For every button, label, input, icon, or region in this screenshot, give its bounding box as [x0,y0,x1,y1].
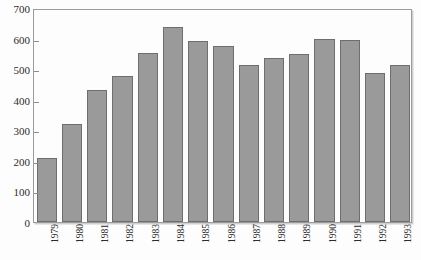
y-tick-mark [34,102,39,103]
y-tick-mark [34,193,39,194]
x-tick-label: 1984 [176,224,186,243]
bar-chart: 0100200300400500600700 19791980198119821… [0,0,421,260]
x-tick-label: 1986 [227,224,237,243]
bar [314,39,334,222]
x-tick-label: 1982 [125,224,135,243]
plot-area [33,9,412,223]
y-tick-label: 400 [0,95,30,106]
bar [163,27,183,222]
bar [213,46,233,222]
x-tick-label: 1988 [277,224,287,243]
y-tick-mark [34,41,39,42]
bar [37,158,57,222]
y-axis: 0100200300400500600700 [0,0,30,260]
bar [239,65,259,222]
bar [365,73,385,222]
x-tick-label: 1993 [403,224,413,243]
bar [188,41,208,222]
bar [289,54,309,222]
y-tick-label: 100 [0,187,30,198]
x-tick-label: 1981 [100,224,110,243]
y-tick-mark [34,163,39,164]
x-tick-label: 1987 [252,224,262,243]
bar [87,90,107,222]
bar [62,124,82,222]
x-tick-label: 1985 [201,224,211,243]
y-tick-label: 600 [0,34,30,45]
y-tick-label: 200 [0,156,30,167]
bar [264,58,284,222]
bar [112,76,132,222]
x-tick-label: 1983 [151,224,161,243]
y-tick-label: 700 [0,4,30,15]
bar [340,40,360,223]
x-tick-label: 1992 [378,224,388,243]
y-tick-mark [34,132,39,133]
y-tick-label: 500 [0,65,30,76]
y-tick-label: 300 [0,126,30,137]
x-tick-label: 1989 [302,224,312,243]
bar [138,53,158,222]
bars-layer [34,10,411,222]
x-tick-label: 1980 [75,224,85,243]
x-tick-label: 1979 [50,224,60,243]
y-tick-mark [34,71,39,72]
plot-inner [34,10,411,222]
bar [390,65,410,222]
y-tick-label: 0 [0,218,30,229]
x-tick-label: 1991 [353,224,363,243]
x-axis: 1979198019811982198319841985198619871988… [33,224,412,260]
x-tick-label: 1990 [328,224,338,243]
